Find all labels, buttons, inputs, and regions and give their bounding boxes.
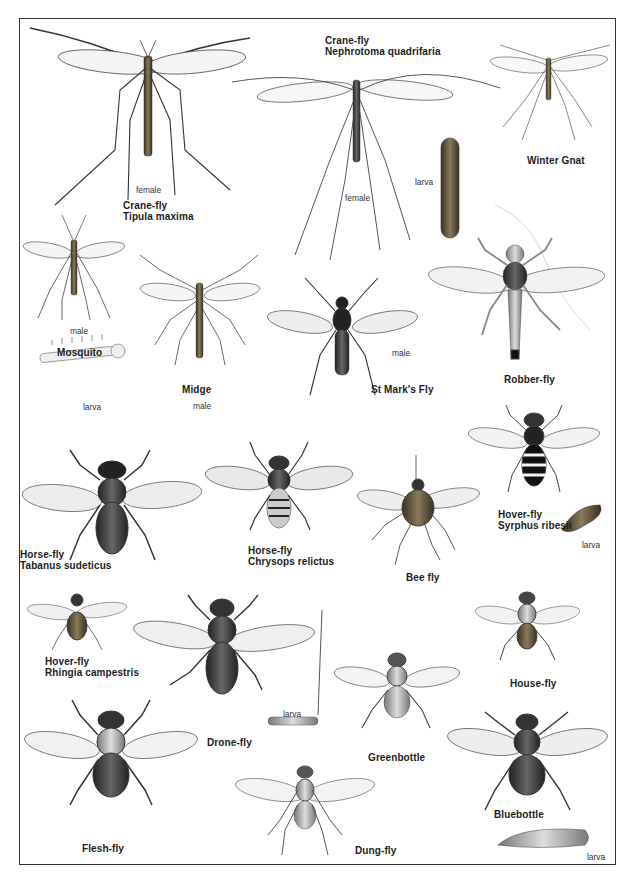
crane-fly-nephrotoma-illustration <box>232 74 500 260</box>
latin-name: Syrphus ribesii <box>498 520 572 531</box>
st-marks-fly-label: St Mark's Fly <box>371 384 434 395</box>
midge-label: Midge <box>182 384 211 395</box>
hover-fly-larva-label: larva <box>582 540 600 550</box>
common-name: Horse-fly <box>20 549 112 560</box>
crane-fly-nephrotoma-label: Crane-fly Nephrotoma quadrifaria <box>325 35 441 57</box>
winter-gnat-illustration <box>489 45 610 140</box>
latin-name: Chrysops relictus <box>248 556 334 567</box>
latin-name: Rhingia campestris <box>45 667 139 678</box>
horse-fly-tabanus-illustration <box>21 450 203 560</box>
mosquito-sex-label: male <box>70 326 88 336</box>
horse-fly-chrysops-label: Horse-fly Chrysops relictus <box>248 545 334 567</box>
crane-fly-larva-illustration <box>441 138 459 238</box>
latin-name: Tabanus sudeticus <box>20 560 112 571</box>
latin-name: Tipula maxima <box>123 211 194 222</box>
mosquito-larva-label: larva <box>83 402 101 412</box>
dung-fly-label: Dung-fly <box>355 845 396 856</box>
flesh-fly-illustration <box>22 700 199 805</box>
winter-gnat-label: Winter Gnat <box>527 155 585 166</box>
bluebottle-larva-illustration <box>498 829 589 848</box>
drone-fly-label: Drone-fly <box>207 737 252 748</box>
house-fly-illustration <box>474 592 581 660</box>
common-name: Crane-fly <box>123 200 194 211</box>
drone-fly-larva-label: larva <box>283 709 301 719</box>
hover-fly-syrphus-label: Hover-fly Syrphus ribesii <box>498 509 572 531</box>
bee-fly-label: Bee fly <box>406 572 440 583</box>
st-marks-fly-sex-label: male <box>392 348 410 358</box>
house-fly-label: House-fly <box>510 678 556 689</box>
st-marks-fly-illustration <box>266 278 419 395</box>
mosquito-illustration <box>22 215 126 320</box>
crane-fly-tipula-label: Crane-fly Tipula maxima <box>123 200 194 222</box>
drone-fly-illustration <box>132 595 317 694</box>
crane-fly-tipula-sex-label: female <box>136 185 161 195</box>
horse-fly-chrysops-illustration <box>204 442 354 530</box>
robber-fly-label: Robber-fly <box>504 374 555 385</box>
hover-fly-syrphus-illustration <box>467 405 601 492</box>
bee-fly-illustration <box>356 455 481 565</box>
crane-fly-tipula-illustration <box>30 28 250 205</box>
flesh-fly-label: Flesh-fly <box>82 843 124 854</box>
midge-sex-label: male <box>193 401 211 411</box>
crane-fly-nephrotoma-larva-label: larva <box>415 177 433 187</box>
dung-fly-illustration <box>234 766 376 855</box>
common-name: Hover-fly <box>498 509 572 520</box>
common-name: Hover-fly <box>45 656 139 667</box>
latin-name: Nephrotoma quadrifaria <box>325 46 441 57</box>
mosquito-label: Mosquito <box>57 347 102 358</box>
hover-fly-rhingia-label: Hover-fly Rhingia campestris <box>45 656 139 678</box>
horse-fly-tabanus-label: Horse-fly Tabanus sudeticus <box>20 549 112 571</box>
common-name: Crane-fly <box>325 35 441 46</box>
greenbottle-label: Greenbottle <box>368 752 425 763</box>
midge-illustration <box>139 255 261 365</box>
bluebottle-larva-label: larva <box>587 852 605 862</box>
hover-fly-rhingia-illustration <box>26 594 127 650</box>
common-name: Horse-fly <box>248 545 334 556</box>
insect-illustrations <box>0 0 630 888</box>
crane-fly-nephrotoma-sex-label: female <box>345 193 370 203</box>
bluebottle-illustration <box>445 712 609 810</box>
bluebottle-label: Bluebottle <box>494 809 544 820</box>
greenbottle-illustration <box>333 653 461 728</box>
